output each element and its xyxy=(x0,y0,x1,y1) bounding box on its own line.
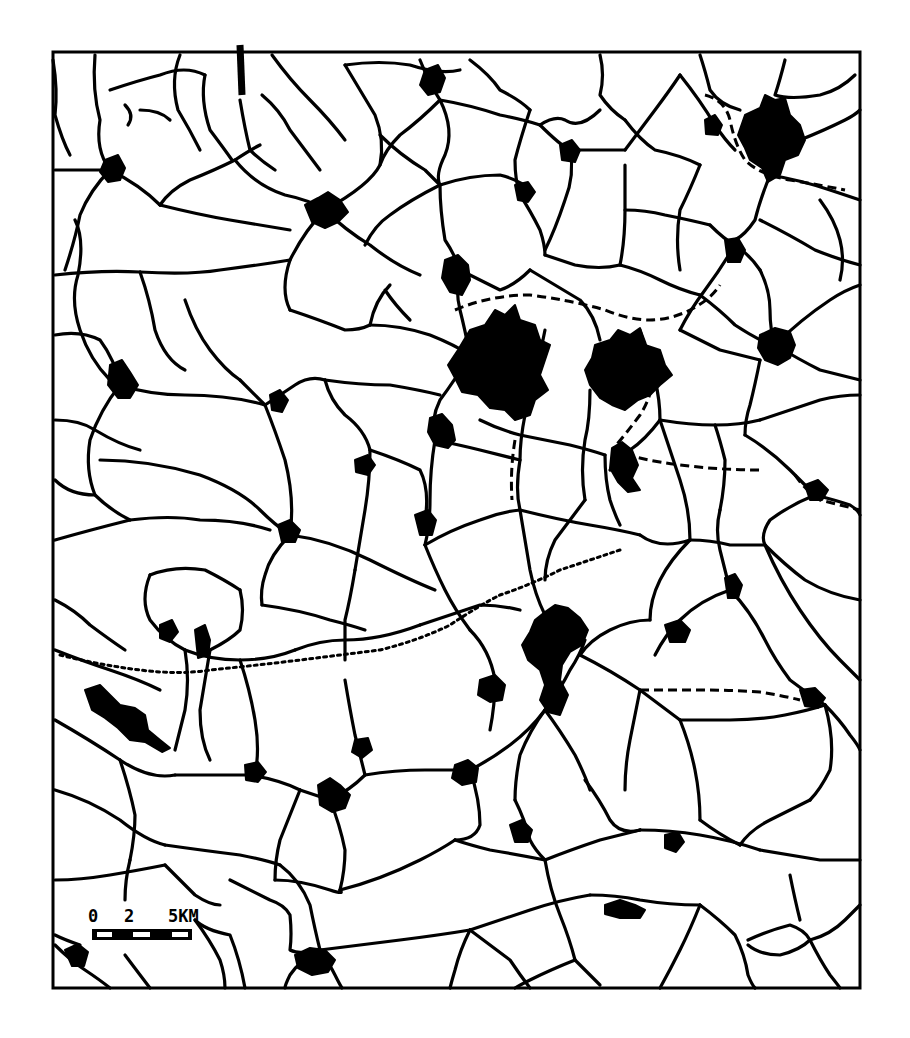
scale-bar-segment xyxy=(133,932,150,937)
scale-bar: 0 2 5KM xyxy=(88,906,199,940)
scale-label-2: 2 xyxy=(124,906,134,926)
map-figure: 0 2 5KM xyxy=(0,0,910,1038)
map-canvas: 0 2 5KM xyxy=(0,0,910,1038)
road-network xyxy=(53,55,860,988)
frame-top-tick xyxy=(240,45,242,95)
scale-label-5km: 5KM xyxy=(168,906,199,926)
scale-label-0: 0 xyxy=(88,906,98,926)
scale-bar-segment xyxy=(172,932,188,937)
scale-bar-segment xyxy=(97,932,112,937)
